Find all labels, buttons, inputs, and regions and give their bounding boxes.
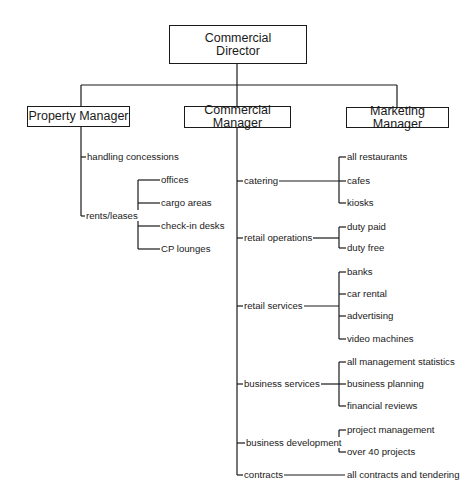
contracts-child-all-contracts-and-tendering: all contracts and tendering <box>346 469 461 480</box>
business-services-child-all-management-statistics: all management statistics <box>346 356 456 367</box>
business-dev-child-over-40-projects: over 40 projects <box>346 446 416 457</box>
commercial-item-retail-operations: retail operations <box>243 232 313 243</box>
catering-child-cafes: cafes <box>346 175 371 186</box>
commercial-manager-box: Commercial Manager <box>184 106 291 128</box>
retail-ops-child-duty-paid: duty paid <box>346 221 387 232</box>
commercial-item-retail-services: retail services <box>243 300 304 311</box>
marketing-manager-box: Marketing Manager <box>346 107 449 128</box>
commercial-item-catering: catering <box>243 175 279 186</box>
commercial-item-contracts: contracts <box>243 469 284 480</box>
property-item-handling-concessions: handling concessions <box>86 151 180 162</box>
retail-services-child-video-machines: video machines <box>346 333 415 344</box>
retail-services-child-advertising: advertising <box>346 310 394 321</box>
retail-ops-child-duty-free: duty free <box>346 242 385 253</box>
business-dev-child-project-management: project management <box>346 424 435 435</box>
catering-child-kiosks: kiosks <box>346 197 375 208</box>
director-box: Commercial Director <box>169 25 307 64</box>
business-services-child-financial-reviews: financial reviews <box>346 400 418 411</box>
catering-child-all-restaurants: all restaurants <box>346 151 408 162</box>
commercial-item-business-development: business development <box>245 437 342 448</box>
rents-child-cp-lounges: CP lounges <box>160 243 211 254</box>
rents-child-check-in-desks: check-in desks <box>160 220 225 231</box>
business-services-child-business-planning: business planning <box>346 378 425 389</box>
director-title-line1: Commercial <box>205 32 272 45</box>
org-chart: Commercial Director Property Manager Com… <box>0 0 473 503</box>
rents-child-offices: offices <box>160 174 190 185</box>
property-manager-label: Property Manager <box>28 110 128 123</box>
retail-services-child-car-rental: car rental <box>346 288 388 299</box>
rents-child-cargo-areas: cargo areas <box>160 197 213 208</box>
property-item-rents-leases: rents/leases <box>85 210 139 221</box>
property-manager-box: Property Manager <box>27 106 130 127</box>
retail-services-child-banks: banks <box>346 266 374 277</box>
commercial-manager-label: Commercial Manager <box>185 104 290 130</box>
marketing-manager-label: Marketing Manager <box>347 105 448 131</box>
commercial-item-business-services: business services <box>243 378 321 389</box>
director-title-line2: Director <box>216 45 260 58</box>
